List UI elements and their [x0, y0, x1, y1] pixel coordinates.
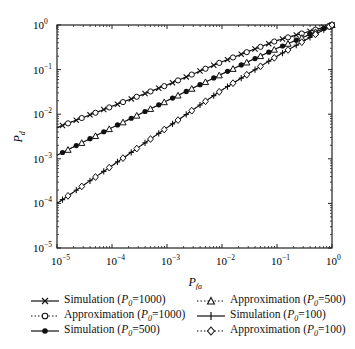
y-tick-label: 10−1: [33, 62, 52, 76]
dotted-triangle-marker-icon: [196, 296, 226, 306]
y-tick-label: 10−3: [33, 151, 52, 165]
legend-label: Simulation (P0=1000): [64, 293, 166, 308]
y-axis-label: Pd: [11, 130, 27, 143]
legend-item-sim-100: Simulation (P0=100): [196, 308, 326, 323]
chart-area: 10−510−510−410−410−310−310−210−210−110−1…: [0, 0, 355, 290]
line-x-marker-icon: [30, 296, 60, 306]
legend-label: Simulation (P0=500): [64, 323, 160, 338]
x-tick-label: 10−1: [271, 253, 290, 267]
x-tick-label: 10−3: [161, 253, 180, 267]
line-filled-circle-marker-icon: [30, 326, 60, 336]
dotted-circle-marker-icon: [30, 311, 60, 321]
legend-label: Approximation (P0=100): [230, 323, 346, 338]
line-plus-marker-icon: [196, 311, 226, 321]
legend: Simulation (P0=1000) Approximation (P0=1…: [0, 290, 355, 349]
y-tick-label: 10−4: [33, 195, 52, 209]
x-tick-label: 10−4: [106, 253, 125, 267]
x-tick-label: 10−5: [51, 253, 70, 267]
x-tick-label: 100: [326, 253, 341, 267]
series-1: [57, 22, 335, 128]
legend-item-sim-500: Simulation (P0=500): [30, 323, 160, 338]
legend-label: Simulation (P0=100): [230, 308, 326, 323]
plot-frame: [57, 25, 332, 248]
y-tick-label: 10−5: [33, 240, 52, 254]
y-tick-label: 100: [33, 17, 48, 31]
legend-label: Approximation (P0=500): [230, 293, 346, 308]
series-6: [57, 22, 335, 204]
x-axis-label: Pfa: [188, 275, 203, 290]
x-tick-label: 10−2: [216, 253, 235, 267]
legend-item-approx-1000: Approximation (P0=1000): [30, 308, 185, 323]
legend-label: Approximation (P0=1000): [64, 308, 185, 323]
legend-item-approx-500: Approximation (P0=500): [196, 293, 346, 308]
y-tick-label: 10−2: [33, 106, 52, 120]
legend-item-approx-100: Approximation (P0=100): [196, 323, 346, 338]
legend-item-sim-1000: Simulation (P0=1000): [30, 293, 166, 308]
series-3: [57, 22, 335, 155]
series-5: [57, 22, 335, 204]
dotted-diamond-marker-icon: [196, 326, 226, 336]
